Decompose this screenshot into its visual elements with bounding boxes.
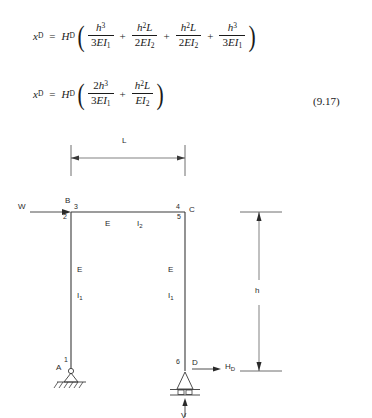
roller-element-left [178,390,184,395]
pin-triangle [64,373,78,382]
reaction-label-V: V [181,411,186,418]
beam-modulus-label: E [105,219,110,228]
joint-label-B: B [65,196,70,205]
node-number-1: 1 [64,356,68,363]
beam-inertia-label: I2 [137,219,143,229]
pin-ground-hatching [54,382,83,388]
height-dim-arrow-top [257,212,262,221]
node-number-2: 2 [63,213,67,220]
right-column-inertia-label: I1 [168,291,174,301]
node-number-4: 4 [176,203,180,210]
span-dimension-label: L [122,136,126,145]
load-label-W: W [18,202,26,211]
height-dimension-label: h [255,286,259,295]
height-dim-arrow-bottom [257,362,262,371]
V-arrow-head [182,398,187,406]
reaction-arrow-HD [192,366,221,371]
span-dim-arrow-left [71,156,79,161]
joint-label-C: C [189,205,195,214]
left-column-modulus-label: E [77,265,82,274]
joint-label-D: D [192,358,198,367]
node-number-3: 3 [74,203,78,210]
roller-element-right [186,390,192,395]
node-number-5: 5 [177,213,181,220]
roller-triangle [177,372,193,389]
left-column-inertia-label: I1 [77,291,83,301]
right-column-modulus-label: E [168,265,173,274]
span-dimension-group [71,145,185,176]
joint-label-A: A [56,363,61,372]
portal-frame-diagram [0,0,372,418]
height-dimension-group [240,212,282,371]
reaction-label-HD: HD [225,362,235,372]
span-dim-arrow-right [177,156,185,161]
HD-arrow-head [213,366,221,371]
roller-support-D [170,372,200,395]
node-number-6: 6 [176,358,180,365]
